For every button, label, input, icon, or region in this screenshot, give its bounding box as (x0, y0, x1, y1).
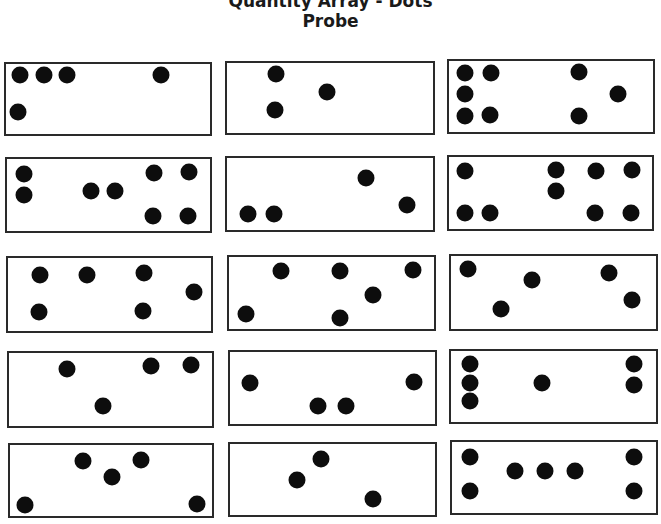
dot (79, 267, 96, 284)
dot (462, 375, 479, 392)
dot (537, 463, 554, 480)
dot (457, 205, 474, 222)
dot (32, 267, 49, 284)
dot (83, 183, 100, 200)
dot (548, 183, 565, 200)
dot (365, 287, 382, 304)
dot (462, 449, 479, 466)
dot (16, 187, 33, 204)
dot (319, 84, 336, 101)
dot (457, 86, 474, 103)
dot (145, 208, 162, 225)
dot (59, 361, 76, 378)
dot (310, 398, 327, 415)
dot (587, 205, 604, 222)
dot (571, 64, 588, 81)
dot (153, 67, 170, 84)
dot (268, 66, 285, 83)
dot (483, 65, 500, 82)
dot (332, 310, 349, 327)
dot (482, 107, 499, 124)
dot (457, 65, 474, 82)
dot (17, 497, 34, 514)
dot (399, 197, 416, 214)
dot (601, 265, 618, 282)
dot (462, 356, 479, 373)
dot (266, 206, 283, 223)
dot (104, 469, 121, 486)
dot (186, 284, 203, 301)
dot (626, 356, 643, 373)
dot (189, 496, 206, 513)
dot (180, 208, 197, 225)
dot-card-14 (228, 442, 437, 517)
dot (588, 163, 605, 180)
dot (507, 463, 524, 480)
dot (146, 165, 163, 182)
dot (457, 108, 474, 125)
dot (238, 306, 255, 323)
dot (338, 398, 355, 415)
dot (267, 102, 284, 119)
dot (462, 483, 479, 500)
dot (460, 261, 477, 278)
dot (36, 67, 53, 84)
dot (493, 301, 510, 318)
dot (59, 67, 76, 84)
dot (242, 375, 259, 392)
dot (289, 472, 306, 489)
dot (10, 104, 27, 121)
dot (313, 451, 330, 468)
dot (181, 164, 198, 181)
dot (624, 292, 641, 309)
dot (240, 206, 257, 223)
dot (626, 483, 643, 500)
dot-card-11 (228, 350, 437, 426)
dot (405, 262, 422, 279)
dot (273, 263, 290, 280)
page-subtitle: Probe (0, 11, 661, 31)
dot (183, 357, 200, 374)
dot (136, 265, 153, 282)
dot (462, 393, 479, 410)
dot (95, 398, 112, 415)
dot (365, 491, 382, 508)
dot (107, 183, 124, 200)
dot (567, 463, 584, 480)
dot (143, 358, 160, 375)
dot (482, 205, 499, 222)
dot (12, 67, 29, 84)
dot (534, 375, 551, 392)
dot (135, 303, 152, 320)
dot (406, 374, 423, 391)
dot (75, 453, 92, 470)
dot (133, 452, 150, 469)
dot (610, 86, 627, 103)
dot (623, 205, 640, 222)
dot (31, 304, 48, 321)
dot (457, 163, 474, 180)
dot-card-5 (225, 156, 435, 232)
dot (626, 449, 643, 466)
dot (624, 162, 641, 179)
dot (332, 263, 349, 280)
dot (626, 377, 643, 394)
dot (548, 162, 565, 179)
dot (358, 170, 375, 187)
dot (524, 272, 541, 289)
page-title: Quantity Array - Dots (0, 0, 661, 11)
dot (571, 108, 588, 125)
dot (16, 166, 33, 183)
